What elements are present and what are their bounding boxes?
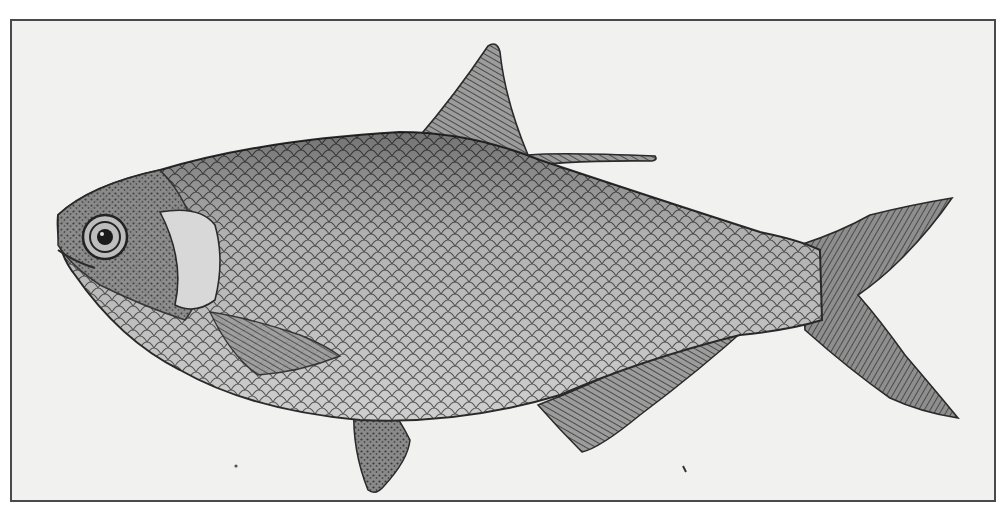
eye-icon <box>83 215 127 259</box>
caudal-fin <box>800 198 958 418</box>
illustration-canvas <box>0 0 1007 507</box>
speck <box>683 466 686 472</box>
speck <box>234 464 237 467</box>
fish-illustration <box>0 0 1007 507</box>
